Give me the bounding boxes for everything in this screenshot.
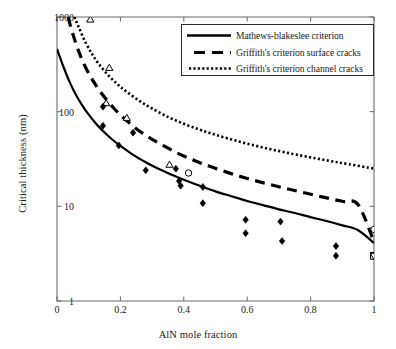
legend-label-2: Griffith's criterion channel cracks	[236, 63, 363, 74]
x-tick-label: 0.2	[114, 304, 127, 315]
x-tick-label: 0.6	[241, 304, 254, 315]
y-tick-label: 100	[14, 106, 74, 117]
x-tick-label: 0.8	[304, 304, 317, 315]
x-tick-label: 1	[372, 304, 377, 315]
y-tick-label: 10	[14, 201, 74, 212]
y-tick-label: 1	[14, 296, 74, 307]
marker-set-open-triangle	[87, 16, 173, 167]
x-axis-title: AlN mole fraction	[0, 329, 396, 340]
legend-item-1: Griffith's criterion surface cracks	[182, 44, 373, 61]
legend-item-0: Mathews-blakeslee criterion	[182, 27, 373, 44]
series-line-0	[57, 49, 374, 243]
legend-swatch-dotted	[182, 62, 236, 75]
figure: Critical thickness (nm) AlN mole fractio…	[0, 0, 396, 349]
legend-label-0: Mathews-blakeslee criterion	[236, 30, 344, 41]
legend-item-2: Griffith's criterion channel cracks	[182, 60, 373, 77]
x-tick-label: 0.4	[178, 304, 191, 315]
legend-swatch-dashed	[182, 46, 236, 59]
legend-label-1: Griffith's criterion surface cracks	[236, 47, 361, 58]
legend-swatch-solid	[182, 29, 236, 42]
legend: Mathews-blakeslee criterion Griffith's c…	[181, 24, 374, 76]
y-tick-label: 1000	[14, 12, 74, 23]
